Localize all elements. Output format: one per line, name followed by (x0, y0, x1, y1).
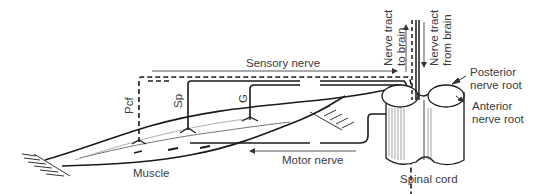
tract-from-brain-arrow (421, 22, 427, 68)
diagram-drawing (0, 0, 544, 194)
tendon-anchor-left (22, 154, 70, 176)
spinal-cord-label: Spinal cord (400, 173, 458, 186)
receptor-endings (132, 117, 258, 144)
tract-from-brain-label: Nerve tract from brain (428, 10, 453, 66)
anterior-root-label: Anterior nerve root (472, 100, 524, 125)
reflex-arc-diagram: Sensory nerve Motor nerve Muscle Spinal … (0, 0, 544, 194)
motor-nerve-label: Motor nerve (282, 154, 343, 167)
sensory-nerve-label: Sensory nerve (246, 57, 320, 70)
motor-nerve-fiber (190, 104, 402, 143)
posterior-root-label: Posterior nerve root (470, 66, 522, 91)
g-label: G (237, 94, 250, 103)
sp-label: Sp (172, 94, 185, 108)
tendon-anchor-right (310, 106, 354, 130)
motor-endings (134, 146, 210, 153)
spinal-cord (382, 85, 464, 165)
pcf-label: Pcf (123, 97, 136, 114)
muscle-label: Muscle (133, 167, 169, 180)
tract-to-brain-label: Nerve tract to brain (382, 10, 407, 66)
